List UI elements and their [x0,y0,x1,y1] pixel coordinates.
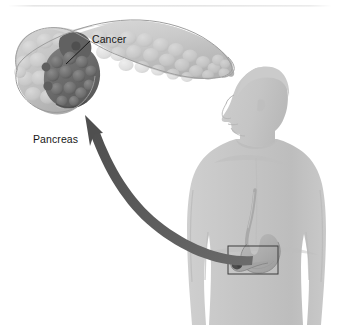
male-torso-silhouette [187,66,326,325]
pancreatic-cancer-illustration: Cancer Pancreas [0,0,340,325]
head-profile [222,68,288,147]
illustration-canvas [0,0,340,325]
pancreas-label: Pancreas [33,133,78,145]
top-divider-rule [8,5,332,6]
cancer-label: Cancer [92,33,126,45]
